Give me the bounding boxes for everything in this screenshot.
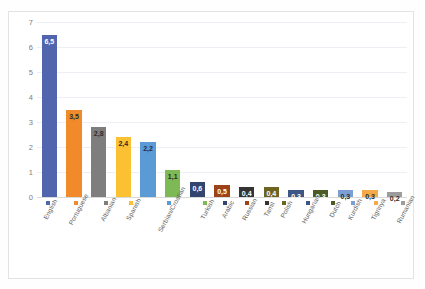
category-axis-item[interactable]: Portuguese	[59, 199, 93, 275]
bar[interactable]: 0,4	[239, 187, 254, 197]
y-axis-tick-label: 2	[29, 143, 33, 152]
bar-slot: 0,4	[259, 22, 284, 197]
bar-value-label: 6,5	[44, 38, 54, 45]
bar-value-label: 0,6	[192, 185, 202, 192]
bar-slot: 1,1	[160, 22, 185, 197]
plot-area: 01234567 6,53,52,82,42,21,10,60,50,40,40…	[37, 22, 407, 197]
bar-slot: 6,5	[37, 22, 62, 197]
category-axis-item[interactable]: Arabic	[216, 199, 235, 275]
category-axis-item[interactable]: Tigrinya	[364, 199, 388, 275]
category-axis-label: Albanian	[100, 196, 118, 222]
category-axis-item[interactable]: Dutch	[324, 199, 341, 275]
bar-value-label: 2,4	[118, 140, 128, 147]
bar[interactable]: 0,2	[387, 192, 402, 197]
bar-slot: 0,6	[185, 22, 210, 197]
category-axis-item[interactable]: Rumanian	[388, 199, 418, 275]
chart-screenshot: 01234567 6,53,52,82,42,21,10,60,50,40,40…	[0, 0, 425, 289]
y-axis-tick-label: 4	[29, 93, 33, 102]
category-axis: EnglishPortugueseAlbanianSpanishSerbian/…	[37, 199, 407, 275]
bar-slot: 0,3	[358, 22, 383, 197]
y-axis-tick-label: 3	[29, 118, 33, 127]
bar[interactable]: 6,5	[42, 35, 57, 198]
bar[interactable]: 0,3	[338, 190, 353, 198]
bar-value-label: 2,2	[143, 145, 153, 152]
y-axis-tick-label: 6	[29, 43, 33, 52]
axis-baseline: 0	[37, 197, 407, 198]
bar-value-label: 3,5	[69, 113, 79, 120]
y-axis-tick-label: 7	[29, 18, 33, 27]
bar[interactable]: 0,3	[288, 190, 303, 198]
chart-frame: 01234567 6,53,52,82,42,21,10,60,50,40,40…	[8, 11, 414, 279]
bar-slot: 0,3	[333, 22, 358, 197]
category-axis-item[interactable]: Tamil	[259, 199, 275, 275]
bar-slot: 0,2	[382, 22, 407, 197]
bar[interactable]: 0,6	[190, 182, 205, 197]
bar-slot: 2,8	[86, 22, 111, 197]
category-axis-label: Hungarian	[301, 194, 321, 224]
y-axis-tick-label: 0	[29, 193, 33, 202]
category-axis-item[interactable]: Kurdish	[341, 199, 364, 275]
bar[interactable]: 3,5	[66, 110, 81, 198]
category-axis-label: Spanish	[126, 197, 143, 221]
bar[interactable]: 0,5	[214, 185, 229, 198]
category-axis-item[interactable]: Spanish	[119, 199, 143, 275]
bar-slot: 2,4	[111, 22, 136, 197]
bar-value-label: 0,4	[242, 190, 252, 197]
y-axis-tick-label: 1	[29, 168, 33, 177]
category-axis-item[interactable]: English	[37, 199, 59, 275]
category-axis-item[interactable]: Albanian	[93, 199, 119, 275]
bar[interactable]: 2,4	[116, 137, 131, 197]
bar-value-label: 0,4	[267, 190, 277, 197]
bar-value-label: 0,5	[217, 188, 227, 195]
bar-slot: 0,5	[210, 22, 235, 197]
category-axis-label: Tigrinya	[370, 198, 387, 222]
bar-slot: 3,5	[62, 22, 87, 197]
category-axis-item[interactable]: Russian	[235, 199, 259, 275]
bar-series: 6,53,52,82,42,21,10,60,50,40,40,30,30,30…	[37, 22, 407, 197]
bar-value-label: 2,8	[94, 130, 104, 137]
bar-slot: 0,3	[284, 22, 309, 197]
category-axis-item[interactable]: Serbian/Croatian	[144, 199, 194, 275]
bar[interactable]: 0,4	[264, 187, 279, 197]
category-axis-label: Russian	[241, 197, 258, 221]
bar-slot: 0,4	[234, 22, 259, 197]
bar[interactable]: 0,3	[362, 190, 377, 198]
bar[interactable]: 2,2	[140, 142, 155, 197]
bar-slot: 0,3	[308, 22, 333, 197]
bar-slot: 2,2	[136, 22, 161, 197]
y-axis-tick-label: 5	[29, 68, 33, 77]
bar[interactable]: 2,8	[91, 127, 106, 197]
category-axis-item[interactable]: Polish	[275, 199, 293, 275]
category-axis-item[interactable]: Turkish	[194, 199, 216, 275]
category-axis-label: Rumanian	[396, 195, 416, 225]
bar-value-label: 1,1	[168, 173, 178, 180]
category-axis-item[interactable]: Hungarian	[293, 199, 324, 275]
